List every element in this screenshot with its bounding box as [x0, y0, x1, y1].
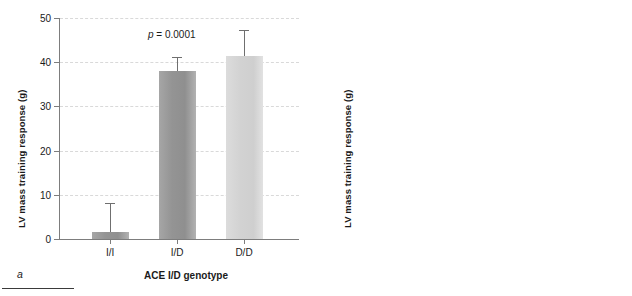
- error-bar-cap-D-D: [239, 30, 249, 31]
- bar-D-D: [226, 56, 263, 239]
- error-bar-I-D: [177, 58, 178, 71]
- plot-area-a: 01020304050I/II/DD/D: [59, 18, 299, 240]
- y-axis-tick: [54, 106, 60, 107]
- y-axis-tick: [54, 151, 60, 152]
- panel-letter-a: a: [17, 268, 23, 280]
- y-axis-tick-label: 50: [40, 13, 51, 24]
- error-bar-D-D: [244, 31, 245, 55]
- y-axis-tick-label: 20: [40, 145, 51, 156]
- y-axis-tick: [54, 62, 60, 63]
- x-axis-tick-label-D-D: D/D: [235, 247, 252, 258]
- y-axis-tick: [54, 18, 60, 19]
- y-axis-tick-label: 40: [40, 57, 51, 68]
- footer-rule: [2, 288, 74, 289]
- y-axis-tick-label: 10: [40, 189, 51, 200]
- x-axis-tick: [110, 239, 111, 244]
- y-axis-tick: [54, 239, 60, 240]
- bar-I-D: [159, 71, 196, 239]
- error-bar-cap-I-I: [105, 203, 115, 204]
- x-axis-tick: [177, 239, 178, 244]
- p-value-annotation-a: p = 0.0001: [148, 29, 196, 40]
- y-axis-tick-label: 0: [45, 234, 51, 245]
- error-bar-I-I: [110, 204, 111, 232]
- x-axis-tick-label-I-D: I/D: [171, 247, 184, 258]
- x-axis-tick-label-I-I: I/I: [106, 247, 114, 258]
- panel-b: LV mass training response (g) 051015I/ID…: [316, 0, 632, 296]
- error-bar-cap-I-D: [172, 57, 182, 58]
- y-axis-title-b: LV mass training response (g): [342, 90, 353, 228]
- x-axis-tick: [244, 239, 245, 244]
- x-axis-title-a: ACE I/D genotype: [144, 270, 228, 281]
- panel-a: LV mass training response (g) 0102030405…: [0, 0, 316, 296]
- y-axis-tick-label: 30: [40, 101, 51, 112]
- p-symbol-a: p: [148, 29, 154, 40]
- bar-I-I: [92, 232, 129, 240]
- y-axis-title-a: LV mass training response (g): [16, 90, 27, 228]
- y-axis-tick: [54, 195, 60, 196]
- p-value-text-a: = 0.0001: [156, 29, 195, 40]
- gridline: [60, 18, 299, 19]
- figure-container: LV mass training response (g) 0102030405…: [0, 0, 632, 296]
- gridline: [60, 62, 299, 63]
